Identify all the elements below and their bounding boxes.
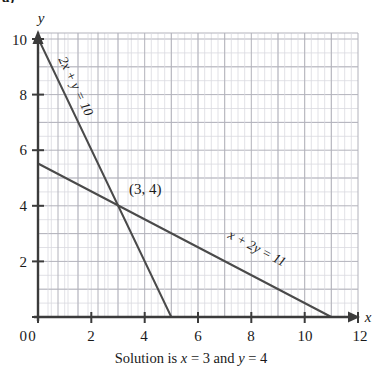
intersection-point-label: (3, 4) (129, 181, 162, 198)
y-axis-arrow-icon (33, 30, 44, 44)
y-tick-label-6: 6 (20, 142, 28, 158)
x-tick-label-12: 12 (353, 328, 368, 344)
grid-major (38, 33, 358, 317)
x-tick-labels: 0 2 4 6 8 10 12 (28, 328, 367, 344)
graph-figure: a) (0, 0, 382, 370)
caption-prefix: Solution is (115, 350, 181, 366)
y-tick-label-4: 4 (20, 198, 28, 214)
x-tick-label-6: 6 (194, 328, 202, 344)
x-tick-label-2: 2 (87, 328, 95, 344)
x-tick-label-10: 10 (298, 328, 313, 344)
y-tick-labels: 0 2 4 6 8 10 (12, 32, 28, 344)
y-axis-label: y (36, 10, 45, 26)
axes (33, 30, 361, 323)
caption-eq2: = 4 (245, 350, 268, 366)
x-tick-label-8: 8 (247, 328, 255, 344)
solution-caption: Solution is x = 3 and y = 4 (115, 350, 268, 366)
caption-eq1: = 3 and (187, 350, 238, 366)
y-tick-label-0: 0 (20, 328, 28, 344)
y-tick-label-10: 10 (12, 32, 27, 48)
y-tick-label-8: 8 (20, 87, 28, 103)
x-tick-label-4: 4 (140, 328, 148, 344)
part-label: a) (2, 0, 15, 3)
y-tick-label-2: 2 (20, 254, 28, 270)
x-tick-label-0: 0 (28, 328, 36, 344)
x-axis-label: x (364, 309, 372, 325)
coordinate-plot: 0 2 4 6 8 10 12 0 2 4 6 8 10 x y 2x + y … (0, 0, 382, 370)
grid-minor-extra (48, 33, 351, 317)
